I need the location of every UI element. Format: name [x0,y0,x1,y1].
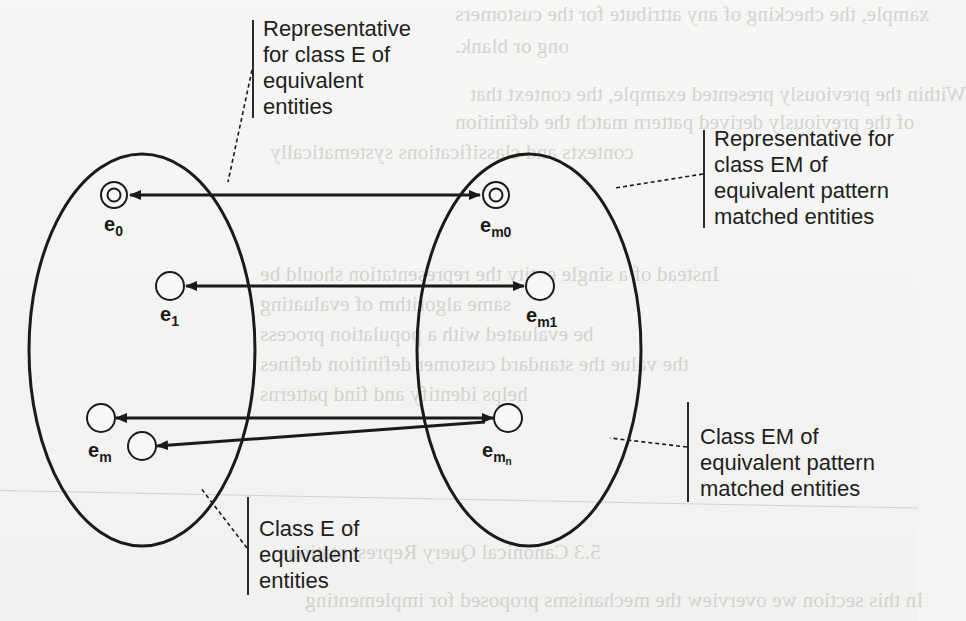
label-e0: e0 [104,214,123,234]
label-em: em [88,440,112,460]
node-e1 [156,272,184,300]
node-em-upper [87,404,115,432]
leader-rep-class-e [228,70,252,182]
callout-bar-class-e [247,497,249,595]
callout-bar-rep-class-em [703,130,705,228]
label-em1: em1 [526,305,557,325]
leader-rep-class-em [615,174,703,188]
node-em-lower [128,432,156,460]
callout-class-e: Class E of equivalent entities [259,516,359,594]
node-em0 [483,182,509,208]
node-e0 [101,182,127,208]
leader-class-em [610,438,687,447]
label-e1: e1 [160,304,179,324]
leader-class-e [200,487,247,548]
callout-bar-class-em [687,402,689,502]
callout-rep-class-em: Representative for class EM of equivalen… [714,126,894,230]
node-emn [494,404,522,432]
callout-rep-class-e: Representative for class E of equivalent… [263,16,411,120]
arrow-emn-em-lower [157,422,485,446]
label-emn: emn [482,440,512,462]
label-em0: em0 [480,215,511,235]
node-em1 [526,272,554,300]
class-em-ellipse [417,154,641,546]
class-e-ellipse [29,154,255,546]
callout-class-em: Class EM of equivalent pattern matched e… [700,424,875,502]
callout-bar-rep-class-e [252,20,254,118]
